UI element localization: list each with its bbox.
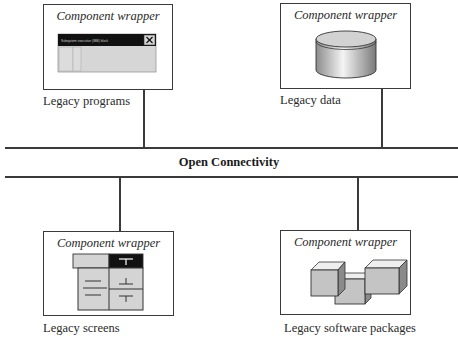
window-title-text: Subsystem executive (IBM) block — [61, 39, 109, 43]
bus-top-line — [5, 147, 458, 149]
wrapper-label: Component wrapper — [44, 236, 173, 251]
connector-legacy-software-packages — [357, 177, 359, 230]
caption-legacy-data: Legacy data — [280, 93, 341, 108]
component-wrapper-legacy-screens: Component wrapper — [43, 231, 174, 316]
caption-legacy-programs: Legacy programs — [43, 94, 130, 109]
connector-legacy-programs — [143, 89, 145, 148]
component-wrapper-legacy-software-packages: Component wrapper — [280, 230, 411, 315]
window-dialog-icon: Subsystem executive (IBM) block — [58, 34, 158, 72]
package-cubes-icon — [295, 258, 399, 306]
connector-legacy-data — [381, 88, 383, 148]
component-wrapper-legacy-data: Component wrapper — [280, 3, 411, 89]
wrapper-label: Component wrapper — [281, 8, 410, 23]
wrapper-label: Component wrapper — [44, 9, 172, 24]
wrapper-label: Component wrapper — [281, 235, 410, 250]
caption-legacy-software-packages: Legacy software packages — [284, 321, 416, 336]
component-wrapper-legacy-programs: Component wrapper Subsystem executive (I… — [43, 4, 173, 90]
database-cylinder-icon — [314, 29, 378, 81]
connector-legacy-screens — [119, 177, 121, 231]
screen-form-icon — [73, 254, 145, 312]
bus-bottom-line — [5, 176, 458, 178]
bus-label: Open Connectivity — [0, 155, 458, 170]
caption-legacy-screens: Legacy screens — [43, 321, 120, 336]
